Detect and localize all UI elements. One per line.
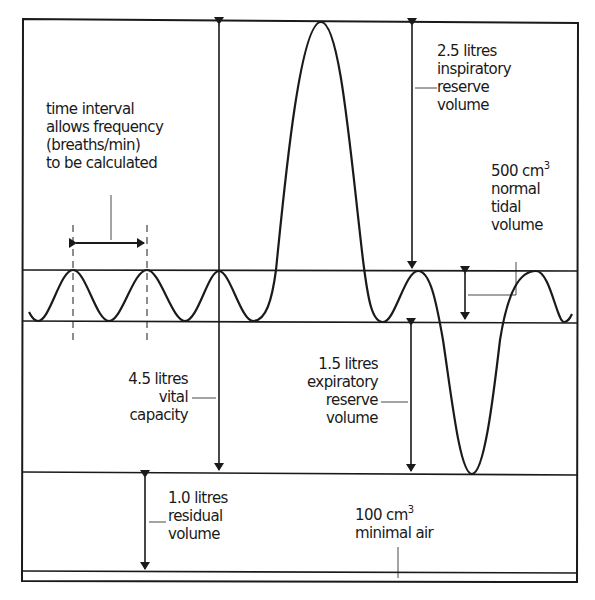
label-line: inspiratory xyxy=(437,60,511,78)
unit-superscript: 3 xyxy=(544,160,550,171)
label-line: normal xyxy=(491,180,549,198)
label-line: residual xyxy=(168,507,228,525)
minimal-air-value: 100 cm3 xyxy=(355,506,433,524)
value-text: 500 cm xyxy=(491,162,544,180)
tidal-volume-label: 500 cm3 normal tidal volume xyxy=(491,162,549,234)
label-line: capacity xyxy=(100,406,188,424)
time-interval-label: time interval allows frequency (breaths/… xyxy=(46,100,163,172)
inspiratory-reserve-label: 2.5 litres inspiratory reserve volume xyxy=(437,42,511,114)
tidal-volume-leader xyxy=(468,262,516,295)
label-line: expiratory xyxy=(286,373,378,391)
label-line: 1.5 litres xyxy=(286,355,378,373)
vital-capacity-label: 4.5 litres vital capacity xyxy=(100,370,188,424)
tidal-upper-line xyxy=(22,270,578,271)
minimal-air-label: 100 cm3 minimal air xyxy=(355,506,433,542)
label-line: minimal air xyxy=(355,524,433,542)
tidal-volume-value: 500 cm3 xyxy=(491,162,549,180)
label-line: allows frequency xyxy=(46,118,163,136)
label-line: 1.0 litres xyxy=(168,489,228,507)
label-line: 4.5 litres xyxy=(100,370,188,388)
tidal-lower-line xyxy=(22,321,578,323)
expiratory-limit-line xyxy=(22,472,578,475)
label-line: tidal xyxy=(491,198,549,216)
residual-limit-line xyxy=(22,571,578,573)
label-line: vital xyxy=(100,388,188,406)
expiratory-reserve-label: 1.5 litres expiratory reserve volume xyxy=(286,355,378,427)
label-line: reserve xyxy=(286,391,378,409)
label-line: volume xyxy=(437,96,511,114)
residual-volume-label: 1.0 litres residual volume xyxy=(168,489,228,543)
label-line: volume xyxy=(491,216,549,234)
label-line: 2.5 litres xyxy=(437,42,511,60)
label-line: volume xyxy=(168,525,228,543)
label-line: volume xyxy=(286,409,378,427)
unit-superscript: 3 xyxy=(408,504,414,515)
label-line: reserve xyxy=(437,78,511,96)
label-line: (breaths/min) xyxy=(46,136,163,154)
label-line: time interval xyxy=(46,100,163,118)
label-line: to be calculated xyxy=(46,154,163,172)
value-text: 100 cm xyxy=(355,506,408,524)
